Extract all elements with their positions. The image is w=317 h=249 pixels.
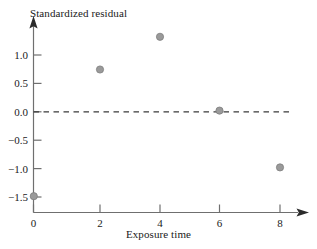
x-tick-marks <box>34 205 281 213</box>
y-axis-title: Standardized residual <box>30 8 127 19</box>
data-point <box>216 107 223 114</box>
data-point <box>96 66 103 73</box>
y-tick-label-2: 0.5 <box>0 78 28 89</box>
x-tick-label-4: 6 <box>217 218 223 229</box>
data-point <box>276 164 283 171</box>
x-tick-label-2: 2 <box>97 218 103 229</box>
plot-area <box>0 0 317 249</box>
data-points <box>30 33 283 200</box>
x-axis-arrow-icon <box>297 208 310 216</box>
x-tick-label-5: 8 <box>277 218 283 229</box>
y-tick-label-6: −1.5 <box>0 192 28 203</box>
x-tick-label-1: 0 <box>31 218 37 229</box>
scatter-chart: Standardized residual 1.0 0.5 0.0 −0.5 −… <box>0 0 317 249</box>
y-tick-label-4: −0.5 <box>0 135 28 146</box>
y-tick-label-5: −1.0 <box>0 163 28 174</box>
data-point <box>156 33 163 40</box>
y-tick-label-1: 1.0 <box>0 50 28 61</box>
y-tick-marks <box>34 55 42 197</box>
data-point <box>30 193 37 200</box>
y-tick-label-3: 0.0 <box>0 106 28 117</box>
x-axis-title: Exposure time <box>0 229 317 240</box>
